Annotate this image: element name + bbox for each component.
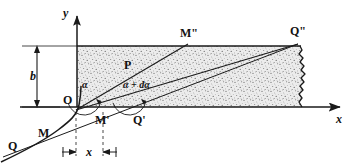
x-axis-label: x [336, 113, 342, 125]
stippled-slab [77, 46, 305, 107]
point-Q-label: Q [8, 140, 17, 152]
angle-alpha-d-alpha-label: α + dα [123, 80, 150, 90]
y-axis-label: y [63, 7, 68, 19]
dimension-b-label: b [30, 70, 36, 82]
point-Q-prime-label: Q' [133, 114, 146, 126]
point-M-prime-label: M' [95, 114, 110, 126]
angle-alpha-label: α [82, 80, 88, 90]
point-P-label: P [124, 59, 131, 71]
diagram-figure: y x O b x α α + dα Q M M' Q' P M" Q" [0, 0, 359, 167]
dimension-x-label: x [86, 146, 92, 158]
point-Q-double-label: Q" [290, 25, 306, 37]
point-M-double-label: M" [180, 27, 198, 39]
origin-label: O [63, 94, 72, 106]
point-M-label: M [38, 127, 49, 139]
